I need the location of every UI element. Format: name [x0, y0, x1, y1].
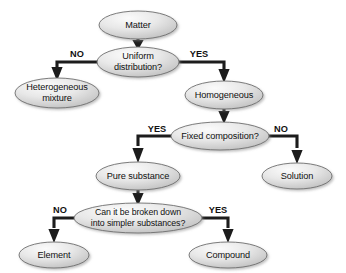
- edge-brokendown-to-element-no: [48, 218, 74, 243]
- node-heterogeneous-mixture-shape[interactable]: [15, 78, 99, 108]
- node-homogeneous-shape[interactable]: [185, 81, 263, 109]
- node-uniform-distribution[interactable]: Uniform distribution?: [97, 47, 179, 77]
- edge-fixed-to-solution-no: [269, 136, 303, 164]
- branch-label-fixed-no: NO: [274, 124, 288, 134]
- node-element[interactable]: Element: [19, 242, 89, 268]
- branch-label-uniform-no: NO: [70, 49, 84, 59]
- node-compound-shape[interactable]: [189, 242, 267, 268]
- node-solution[interactable]: Solution: [262, 163, 332, 189]
- node-element-shape[interactable]: [19, 242, 89, 268]
- edge-fixed-to-pure-yes: [132, 136, 171, 163]
- branch-label-fixed-yes: YES: [148, 124, 167, 134]
- edge-brokendown-to-compound-yes: [202, 218, 234, 243]
- edge-uniform-to-homogeneous-yes: [179, 62, 230, 83]
- node-compound[interactable]: Compound: [189, 242, 267, 268]
- node-pure-substance-shape[interactable]: [96, 162, 180, 190]
- node-fixed-composition[interactable]: Fixed composition?: [171, 122, 269, 150]
- node-uniform-distribution-shape[interactable]: [97, 47, 179, 77]
- classification-of-matter-diagram: Matter Uniform distribution? Heterogeneo…: [0, 0, 346, 273]
- node-matter[interactable]: Matter: [99, 11, 177, 39]
- node-matter-shape[interactable]: [99, 11, 177, 39]
- node-heterogeneous-mixture[interactable]: Heterogeneous mixture: [15, 78, 99, 108]
- flowchart-canvas: Matter Uniform distribution? Heterogeneo…: [0, 0, 346, 273]
- node-solution-shape[interactable]: [262, 163, 332, 189]
- node-broken-down[interactable]: Can it be broken down into simpler subst…: [74, 203, 202, 233]
- node-fixed-composition-shape[interactable]: [171, 122, 269, 150]
- node-homogeneous[interactable]: Homogeneous: [185, 81, 263, 109]
- branch-label-brokendown-no: NO: [53, 205, 67, 215]
- branch-label-uniform-yes: YES: [190, 49, 209, 59]
- node-pure-substance[interactable]: Pure substance: [96, 162, 180, 190]
- node-broken-down-shape[interactable]: [74, 203, 202, 233]
- branch-label-brokendown-yes: YES: [209, 205, 228, 215]
